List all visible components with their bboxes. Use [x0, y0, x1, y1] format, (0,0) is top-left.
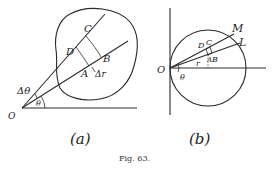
- label-O: O: [8, 111, 16, 121]
- label-r: r: [196, 59, 201, 68]
- label-theta-b: θ: [180, 73, 185, 82]
- label-O-b: O: [157, 64, 165, 75]
- label-C-b: C: [206, 38, 212, 47]
- label-B-b: B: [211, 55, 218, 64]
- ray-upper: [22, 14, 105, 108]
- figure-63: C D B A Δr Δθ θ O (a) M L D C A B r θ O: [0, 0, 272, 169]
- arc-DA: [76, 47, 89, 66]
- label-L: L: [238, 36, 246, 49]
- label-M: M: [231, 22, 244, 35]
- label-A: A: [80, 68, 88, 79]
- label-D: D: [65, 46, 74, 57]
- label-D-b: D: [197, 41, 205, 50]
- label-B: B: [102, 53, 110, 64]
- label-delta-theta: Δθ: [16, 85, 30, 96]
- label-C: C: [84, 23, 92, 34]
- ray-OL: [170, 43, 240, 68]
- theta-arc: [41, 96, 45, 108]
- figure-caption: Fig. 63.: [119, 154, 150, 163]
- panel-label-b: (b): [189, 130, 210, 148]
- panel-label-a: (a): [70, 130, 91, 148]
- label-theta: θ: [36, 99, 41, 108]
- label-delta-r: Δr: [94, 69, 106, 79]
- ray-OM: [170, 34, 234, 68]
- arc-CB: [86, 36, 101, 57]
- panel-b: M L D C A B r θ O (b): [157, 8, 266, 148]
- panel-a: C D B A Δr Δθ θ O (a): [8, 8, 137, 148]
- delta-theta-arc: [35, 94, 37, 98]
